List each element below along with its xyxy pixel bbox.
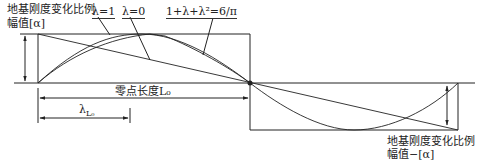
zero-length-label: 零点长度L₀ [115, 85, 171, 98]
lambda-l0-label: λL₀ [79, 103, 95, 120]
top-left-label-line1: 地基刚度变化比例 [7, 3, 95, 16]
zero-crossing-point [248, 81, 253, 86]
lambda-1-label: λ=1 [92, 5, 115, 19]
bottom-right-label-line2: 幅值−[α] [387, 148, 434, 161]
lambda-0-label: λ=0 [122, 5, 145, 19]
bottom-right-label-line1: 地基刚度变化比例 [387, 135, 475, 148]
formula-label: 1+λ+λ²=6/π [166, 5, 237, 19]
top-left-label-line2: 幅值[α] [7, 17, 45, 30]
